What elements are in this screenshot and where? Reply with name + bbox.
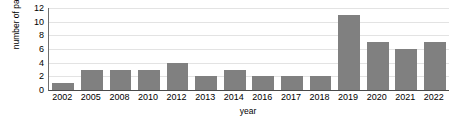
y-axis-tick-label: 4 (22, 58, 44, 67)
bar-series (49, 8, 449, 90)
x-axis-tick-label: 2008 (105, 92, 134, 102)
y-axis-tick-label: 2 (22, 72, 44, 81)
plot-area (48, 8, 449, 91)
bar[interactable] (110, 70, 132, 91)
bar[interactable] (367, 42, 389, 90)
x-axis-tick-label: 2005 (77, 92, 106, 102)
bar[interactable] (167, 63, 189, 90)
bar[interactable] (395, 49, 417, 90)
bar[interactable] (195, 76, 217, 90)
bar-chart: number of papers 024681012 2002200520082… (0, 0, 458, 126)
x-axis-tick-labels: 2002200520082010201220132014201620172018… (48, 92, 448, 102)
bar-slot (421, 8, 450, 90)
bar-slot (278, 8, 307, 90)
bar-slot (135, 8, 164, 90)
bar[interactable] (310, 76, 332, 90)
bar[interactable] (338, 15, 360, 90)
bar-slot (163, 8, 192, 90)
bar-slot (49, 8, 78, 90)
bar-slot (106, 8, 135, 90)
y-axis-tick-label: 12 (22, 4, 44, 13)
x-axis-tick-label: 2022 (420, 92, 449, 102)
bar[interactable] (81, 70, 103, 91)
bar[interactable] (281, 76, 303, 90)
bar-slot (78, 8, 107, 90)
x-axis-tick-label: 2013 (191, 92, 220, 102)
x-axis-tick-label: 2018 (305, 92, 334, 102)
bar-slot (335, 8, 364, 90)
y-axis-tick-label: 6 (22, 45, 44, 54)
x-axis-title: year (48, 106, 448, 116)
bar-slot (392, 8, 421, 90)
x-axis-tick-label: 2019 (334, 92, 363, 102)
x-axis-tick-label: 2020 (362, 92, 391, 102)
bar[interactable] (224, 70, 246, 91)
y-axis-tick-label: 10 (22, 17, 44, 26)
y-axis-tick-label: 0 (22, 86, 44, 95)
y-axis-tick-label: 8 (22, 31, 44, 40)
bar-slot (192, 8, 221, 90)
bar[interactable] (138, 70, 160, 91)
bar-slot (220, 8, 249, 90)
bar-slot (363, 8, 392, 90)
x-axis-tick-label: 2002 (48, 92, 77, 102)
bar[interactable] (424, 42, 446, 90)
x-axis-tick-label: 2021 (391, 92, 420, 102)
x-axis-tick-label: 2010 (134, 92, 163, 102)
bar[interactable] (52, 83, 74, 90)
bar-slot (249, 8, 278, 90)
y-axis-tick-labels: 024681012 (22, 8, 44, 90)
x-axis-tick-label: 2014 (219, 92, 248, 102)
bar[interactable] (252, 76, 274, 90)
x-axis-tick-label: 2017 (277, 92, 306, 102)
x-axis-tick-label: 2012 (162, 92, 191, 102)
x-axis-tick-label: 2016 (248, 92, 277, 102)
bar-slot (306, 8, 335, 90)
